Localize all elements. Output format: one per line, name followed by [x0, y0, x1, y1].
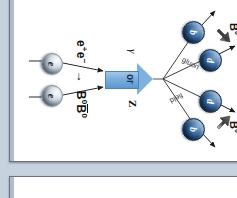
page-gutter: [10, 177, 14, 198]
boson-or-label: or: [125, 63, 136, 95]
particle-lepton-right: e: [41, 85, 63, 107]
particle-label: d: [205, 99, 216, 104]
particle-label: e: [47, 94, 58, 98]
document-page-2: [9, 176, 237, 198]
meson-label-left: B0: [228, 23, 237, 35]
reaction-arrow: →: [74, 71, 88, 83]
reaction-product-2-charge: 0: [80, 113, 89, 118]
meson-right-symbol: B: [228, 121, 237, 129]
reaction-caption: e+e− → B0B0: [74, 1, 89, 157]
meson-left-symbol: B: [228, 23, 237, 31]
boson-arrow-head: [137, 63, 153, 95]
particle-label: e: [47, 62, 58, 66]
figure-rotated-container: or γ Z gluon field e e b: [13, 0, 237, 159]
reaction-e-minus: e: [74, 52, 88, 59]
meson-left-charge: 0: [234, 31, 237, 35]
reaction-e-minus-charge: −: [80, 59, 89, 64]
particle-label: b: [188, 127, 199, 132]
particle-quark-b-left: b: [182, 21, 205, 44]
z-boson-label: Z: [127, 100, 139, 107]
document-viewer[interactable]: or γ Z gluon field e e b: [0, 0, 237, 198]
particle-label: b: [188, 30, 199, 35]
particle-quark-b-right: b: [182, 118, 205, 141]
particle-label: d: [205, 58, 216, 63]
reaction-product-1: B: [74, 91, 88, 100]
particle-quark-d-left: d: [199, 49, 222, 72]
meson-right-charge: 0: [234, 129, 237, 133]
meson-label-right: B0: [228, 121, 237, 133]
particle-quark-d-right: d: [199, 90, 222, 113]
feynman-style-figure: or γ Z gluon field e e b: [13, 0, 237, 159]
reaction-e-plus: e: [74, 40, 88, 47]
particle-lepton-left: e: [41, 53, 63, 75]
document-page-1: or γ Z gluon field e e b: [9, 0, 237, 162]
boson-arrow: or: [107, 63, 153, 95]
photon-label: γ: [127, 49, 139, 53]
